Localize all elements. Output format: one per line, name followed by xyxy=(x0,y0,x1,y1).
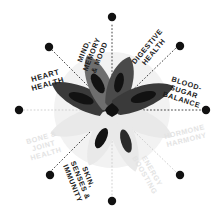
label-digestive-health[interactable]: DIGESTIVE HEALTH xyxy=(130,27,171,71)
spoke-dot-blood-sugar-balance[interactable] xyxy=(202,106,210,114)
spoke-dot-heart-health[interactable] xyxy=(45,43,53,51)
label-hormone-harmony[interactable]: HORMONE HARMONY xyxy=(163,122,207,149)
health-benefits-infographic: MIND, MEMORY & MOOD DIGESTIVE HEALTH BLO… xyxy=(0,0,224,216)
radial-wheel-svg: MIND, MEMORY & MOOD DIGESTIVE HEALTH BLO… xyxy=(0,0,224,216)
label-energy-boosting[interactable]: ENERGY BOOSTING xyxy=(130,150,166,196)
spoke-dot-bone-joint-health[interactable] xyxy=(15,106,23,114)
spoke-dot-hormone-harmony[interactable] xyxy=(176,171,184,179)
spoke-dot-mind-memory-mood[interactable] xyxy=(108,13,116,21)
spoke-dot-energy-boosting[interactable] xyxy=(108,197,116,205)
spoke-dot-skin-senses-immunity[interactable] xyxy=(46,171,54,179)
spoke-dot-digestive-health[interactable] xyxy=(176,42,184,50)
